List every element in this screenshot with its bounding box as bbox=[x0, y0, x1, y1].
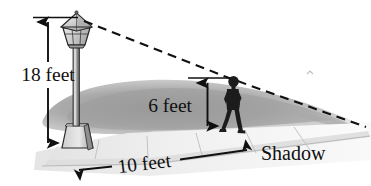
shadow-label: Shadow bbox=[261, 142, 326, 164]
diagram-canvas: 18 feet 6 feet 10 feet Shadow bbox=[0, 0, 371, 186]
person-front-shoe bbox=[238, 130, 246, 134]
person-hips bbox=[227, 104, 241, 110]
lamp-pole bbox=[73, 44, 80, 126]
lamp-shadow-diagram: 18 feet 6 feet 10 feet Shadow bbox=[0, 0, 371, 186]
scan-artifact-mark bbox=[307, 71, 313, 74]
lantern-finial bbox=[75, 11, 78, 14]
lamp-height-label: 18 feet bbox=[21, 64, 75, 85]
person-height-label: 6 feet bbox=[148, 95, 192, 116]
person-neck bbox=[232, 86, 236, 89]
person-rear-shoe bbox=[219, 129, 227, 132]
lantern-bottom-rim bbox=[68, 45, 85, 48]
